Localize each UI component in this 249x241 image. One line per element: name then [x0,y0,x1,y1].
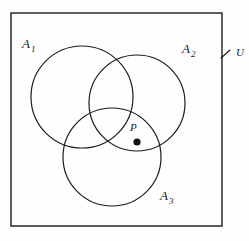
set-label-a3: A [159,188,168,203]
set-circle-a3 [63,108,161,206]
point-marker-p [133,138,140,145]
set-circle-a2 [89,55,185,151]
point-label-p: P [129,121,137,133]
venn-diagram-svg: A 1 A 2 A 3 U P [0,0,249,241]
set-label-a2-subscript: 2 [191,49,196,59]
universe-label: U [236,46,245,58]
universe-rectangle [11,13,222,226]
venn-diagram-canvas: A 1 A 2 A 3 U P [0,0,249,241]
set-label-a2: A [181,41,190,56]
set-label-a1-subscript: 1 [31,44,36,54]
set-label-a1: A [21,36,30,51]
set-circle-a1 [31,46,133,148]
set-label-a3-subscript: 3 [168,196,174,206]
